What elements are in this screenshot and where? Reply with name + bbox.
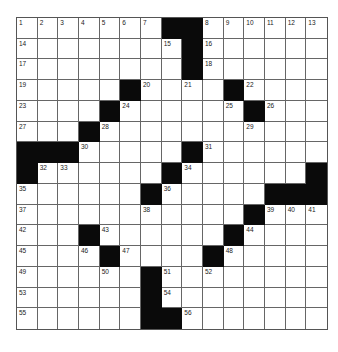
grid-cell[interactable] bbox=[141, 142, 162, 163]
grid-cell[interactable] bbox=[286, 288, 307, 309]
grid-cell[interactable] bbox=[203, 163, 224, 184]
grid-cell[interactable] bbox=[244, 308, 265, 329]
grid-cell[interactable]: 15 bbox=[162, 39, 183, 60]
grid-cell[interactable] bbox=[306, 225, 327, 246]
grid-cell[interactable]: 5 bbox=[100, 18, 121, 39]
grid-cell[interactable] bbox=[38, 267, 59, 288]
grid-cell[interactable]: 41 bbox=[306, 205, 327, 226]
grid-cell[interactable] bbox=[286, 308, 307, 329]
grid-cell[interactable]: 7 bbox=[141, 18, 162, 39]
grid-cell[interactable] bbox=[182, 288, 203, 309]
grid-cell[interactable] bbox=[120, 184, 141, 205]
grid-cell[interactable] bbox=[38, 39, 59, 60]
grid-cell[interactable] bbox=[162, 205, 183, 226]
grid-cell[interactable] bbox=[79, 101, 100, 122]
grid-cell[interactable] bbox=[100, 288, 121, 309]
grid-cell[interactable]: 43 bbox=[100, 225, 121, 246]
grid-cell[interactable] bbox=[141, 59, 162, 80]
grid-cell[interactable] bbox=[58, 308, 79, 329]
grid-cell[interactable] bbox=[182, 184, 203, 205]
grid-cell[interactable] bbox=[265, 163, 286, 184]
grid-cell[interactable] bbox=[244, 267, 265, 288]
grid-cell[interactable] bbox=[182, 225, 203, 246]
grid-cell[interactable] bbox=[286, 142, 307, 163]
grid-cell[interactable] bbox=[182, 101, 203, 122]
grid-cell[interactable] bbox=[162, 225, 183, 246]
grid-cell[interactable]: 34 bbox=[182, 163, 203, 184]
grid-cell[interactable] bbox=[141, 225, 162, 246]
grid-cell[interactable] bbox=[58, 288, 79, 309]
grid-cell[interactable]: 9 bbox=[224, 18, 245, 39]
grid-cell[interactable] bbox=[58, 101, 79, 122]
grid-cell[interactable]: 25 bbox=[224, 101, 245, 122]
grid-cell[interactable] bbox=[79, 184, 100, 205]
grid-cell[interactable]: 44 bbox=[244, 225, 265, 246]
grid-cell[interactable] bbox=[162, 59, 183, 80]
grid-cell[interactable] bbox=[79, 308, 100, 329]
grid-cell[interactable] bbox=[306, 142, 327, 163]
grid-cell[interactable] bbox=[244, 59, 265, 80]
grid-cell[interactable] bbox=[286, 101, 307, 122]
grid-cell[interactable]: 29 bbox=[244, 122, 265, 143]
grid-cell[interactable]: 20 bbox=[141, 80, 162, 101]
grid-cell[interactable] bbox=[306, 101, 327, 122]
grid-cell[interactable] bbox=[58, 267, 79, 288]
grid-cell[interactable] bbox=[120, 59, 141, 80]
grid-cell[interactable] bbox=[265, 59, 286, 80]
grid-cell[interactable]: 11 bbox=[265, 18, 286, 39]
grid-cell[interactable]: 22 bbox=[244, 80, 265, 101]
grid-cell[interactable] bbox=[162, 142, 183, 163]
grid-cell[interactable] bbox=[58, 80, 79, 101]
grid-cell[interactable]: 17 bbox=[17, 59, 38, 80]
grid-cell[interactable] bbox=[58, 59, 79, 80]
grid-cell[interactable] bbox=[286, 59, 307, 80]
grid-cell[interactable] bbox=[100, 59, 121, 80]
grid-cell[interactable] bbox=[38, 80, 59, 101]
grid-cell[interactable] bbox=[58, 39, 79, 60]
grid-cell[interactable] bbox=[286, 163, 307, 184]
grid-cell[interactable] bbox=[224, 142, 245, 163]
grid-cell[interactable] bbox=[182, 122, 203, 143]
grid-cell[interactable] bbox=[244, 163, 265, 184]
grid-cell[interactable]: 14 bbox=[17, 39, 38, 60]
grid-cell[interactable] bbox=[58, 225, 79, 246]
grid-cell[interactable] bbox=[203, 80, 224, 101]
grid-cell[interactable] bbox=[244, 39, 265, 60]
grid-cell[interactable]: 51 bbox=[162, 267, 183, 288]
grid-cell[interactable] bbox=[120, 288, 141, 309]
grid-cell[interactable]: 4 bbox=[79, 18, 100, 39]
grid-cell[interactable] bbox=[120, 225, 141, 246]
grid-cell[interactable] bbox=[265, 122, 286, 143]
grid-cell[interactable]: 40 bbox=[286, 205, 307, 226]
grid-cell[interactable]: 37 bbox=[17, 205, 38, 226]
grid-cell[interactable] bbox=[224, 59, 245, 80]
grid-cell[interactable] bbox=[265, 288, 286, 309]
grid-cell[interactable]: 27 bbox=[17, 122, 38, 143]
grid-cell[interactable] bbox=[79, 80, 100, 101]
grid-cell[interactable] bbox=[265, 80, 286, 101]
grid-cell[interactable] bbox=[120, 163, 141, 184]
grid-cell[interactable] bbox=[79, 267, 100, 288]
grid-cell[interactable] bbox=[58, 184, 79, 205]
grid-cell[interactable]: 30 bbox=[79, 142, 100, 163]
grid-cell[interactable] bbox=[182, 246, 203, 267]
grid-cell[interactable] bbox=[79, 163, 100, 184]
grid-cell[interactable] bbox=[265, 225, 286, 246]
grid-cell[interactable]: 55 bbox=[17, 308, 38, 329]
grid-cell[interactable] bbox=[224, 39, 245, 60]
grid-cell[interactable] bbox=[38, 122, 59, 143]
grid-cell[interactable]: 12 bbox=[286, 18, 307, 39]
grid-cell[interactable] bbox=[286, 267, 307, 288]
grid-cell[interactable] bbox=[286, 225, 307, 246]
grid-cell[interactable]: 10 bbox=[244, 18, 265, 39]
grid-cell[interactable] bbox=[141, 122, 162, 143]
grid-cell[interactable] bbox=[286, 80, 307, 101]
grid-cell[interactable]: 54 bbox=[162, 288, 183, 309]
grid-cell[interactable] bbox=[182, 267, 203, 288]
grid-cell[interactable] bbox=[265, 308, 286, 329]
grid-cell[interactable] bbox=[120, 39, 141, 60]
grid-cell[interactable] bbox=[100, 205, 121, 226]
grid-cell[interactable]: 33 bbox=[58, 163, 79, 184]
grid-cell[interactable] bbox=[182, 205, 203, 226]
grid-cell[interactable] bbox=[162, 80, 183, 101]
